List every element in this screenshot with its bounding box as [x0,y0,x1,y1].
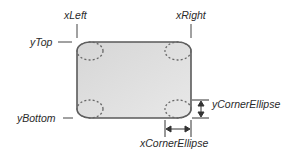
x-corner-dimension [165,120,191,137]
label-xright: xRight [176,9,206,21]
rounded-rectangle [77,42,191,118]
y-corner-dimension [192,100,209,118]
label-xleft: xLeft [64,9,87,21]
label-ytop: yTop [30,36,52,48]
label-ycornerellipse: yCornerEllipse [212,98,280,110]
label-xcornerellipse: xCornerEllipse [140,137,208,149]
round-rect-diagram [0,0,291,157]
label-ybottom: yBottom [17,112,56,124]
